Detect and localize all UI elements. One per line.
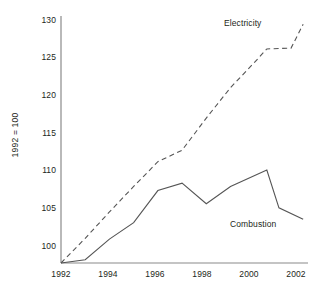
line-chart: 1992 = 100 130 125 120 115 110 105 100 1…	[0, 0, 323, 294]
y-tick-110: 110	[30, 165, 56, 175]
y-tick-125: 125	[30, 52, 56, 62]
y-tick-115: 115	[30, 128, 56, 138]
x-tick-1992: 1992	[44, 269, 78, 279]
series-label-combustion: Combustion	[230, 219, 276, 229]
series-label-electricity: Electricity	[224, 18, 261, 28]
x-tick-1998: 1998	[185, 269, 219, 279]
y-tick-100: 100	[30, 241, 56, 251]
y-tick-130: 130	[30, 15, 56, 25]
x-tick-2000: 2000	[232, 269, 266, 279]
y-tick-120: 120	[30, 90, 56, 100]
x-tick-1996: 1996	[138, 269, 172, 279]
series-line-combustion	[61, 170, 303, 263]
y-tick-105: 105	[30, 203, 56, 213]
x-tick-2002: 2002	[279, 269, 313, 279]
y-axis-title: 1992 = 100	[10, 99, 20, 171]
x-tick-1994: 1994	[91, 269, 125, 279]
